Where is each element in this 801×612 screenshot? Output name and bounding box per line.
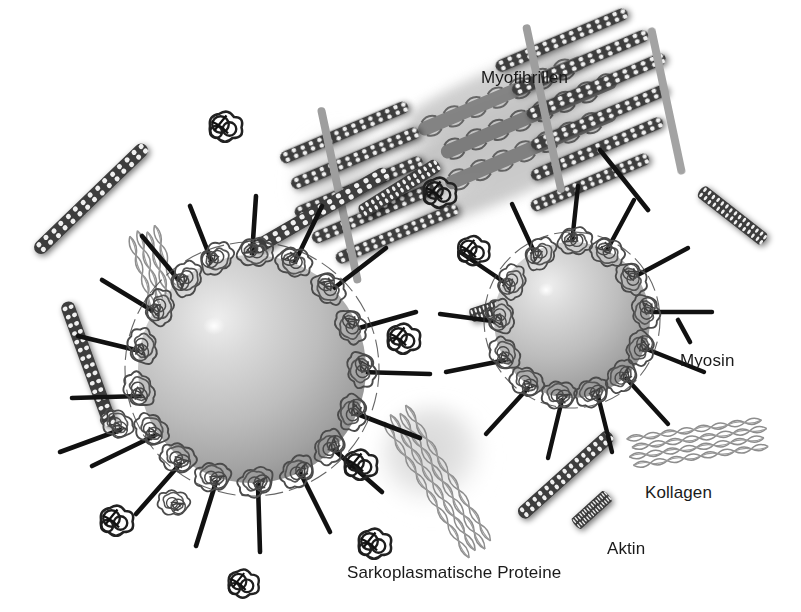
label-kollagen: Kollagen: [645, 483, 712, 503]
collagen-bundle-legend: [626, 417, 769, 469]
label-myofibrillen: Myofibrillen: [481, 68, 568, 88]
label-sarkoplasmatische-proteine: Sarkoplasmatische Proteine: [347, 563, 561, 583]
label-myosin: Myosin: [680, 351, 734, 371]
label-aktin: Aktin: [607, 539, 645, 559]
figure-canvas: Myofibrillen Myosin Kollagen Aktin Sarko…: [0, 0, 801, 612]
diagram-artwork: [0, 0, 801, 612]
aktin-legend-filament: [570, 490, 613, 531]
actin-filament: [696, 184, 770, 246]
small-fat-globule-assembly: [440, 186, 712, 458]
